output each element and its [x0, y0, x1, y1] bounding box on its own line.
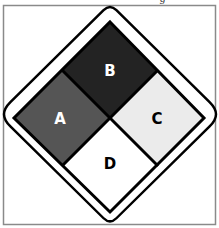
quadrant-label-c: C — [151, 110, 162, 128]
quadrant-label-b: B — [104, 62, 115, 80]
diamond-diagram: g B A C D — [0, 0, 219, 228]
cropped-caption-fragment: g — [160, 0, 166, 4]
quadrant-label-a: A — [54, 110, 66, 128]
quadrant-label-d: D — [104, 155, 116, 173]
